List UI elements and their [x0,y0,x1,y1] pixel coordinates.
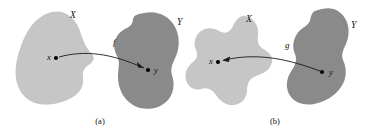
panel-a-source-set-label: X [69,10,77,20]
panel-b-target-point-dot [320,70,324,74]
panel-b-source-point-dot [216,60,220,64]
panel-b-map-label: g [285,40,290,50]
panel-b-source-set-label: X [245,14,253,24]
mapping-diagram-figure: X Y f x y (a) X Y g x y (b) [0,0,380,137]
panel-b-source-point-label: x [208,56,213,66]
panel-a-target-point-label: y [153,65,158,75]
panel-b-target-point-label: y [328,67,333,77]
panel-a-caption: (a) [95,116,105,126]
panel-a-source-point-dot [54,56,58,60]
panel-a-source-point-label: x [46,52,51,62]
figure-canvas: X Y f x y (a) X Y g x y (b) [0,0,380,137]
panel-b-caption: (b) [270,116,280,126]
panel-a-target-point-dot [146,68,150,72]
